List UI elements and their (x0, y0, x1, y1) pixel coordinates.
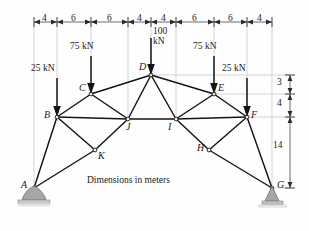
figure-caption: Dimensions in meters (87, 176, 170, 186)
load-label-100kN-apex-line2: kN (153, 37, 165, 47)
member-A-K (34, 150, 95, 188)
joint-K (93, 148, 97, 152)
member-K-J (95, 119, 128, 150)
joint-label-D: D (139, 62, 146, 72)
member-B-C (57, 94, 91, 117)
joint-label-H: H (197, 143, 204, 153)
joint-H (207, 148, 211, 152)
joint-label-K: K (98, 151, 105, 161)
dim-right-2: 4 (277, 99, 282, 109)
dim-top-6: 6 (192, 14, 197, 24)
member-B-J (57, 117, 128, 119)
joint-label-C: C (79, 83, 86, 93)
truss-members (34, 75, 272, 188)
member-I-F (176, 117, 247, 119)
joint-label-I: I (168, 122, 171, 132)
dim-top-1: 4 (42, 14, 47, 24)
joint-label-B: B (44, 110, 50, 120)
member-A-B (34, 117, 57, 188)
dim-right-3: 14 (273, 141, 283, 151)
member-C-J (91, 94, 128, 119)
dim-top-7: 6 (228, 14, 233, 24)
member-E-F (214, 94, 247, 117)
load-label-75kN-right: 75 kN (193, 42, 217, 52)
dim-top-8: 4 (257, 14, 262, 24)
dim-top-5: 4 (161, 14, 166, 24)
load-label-25kN-left: 25 kN (31, 64, 55, 74)
dim-top-4: 4 (137, 14, 142, 24)
dim-top-3: 6 (107, 14, 112, 24)
joint-I (174, 117, 178, 121)
load-arrow-75kN-left (87, 56, 95, 94)
joint-label-E: E (218, 83, 224, 93)
dim-right-1: 3 (277, 78, 282, 88)
load-label-75kN-left: 75 kN (70, 42, 94, 52)
right-dimension-line (285, 75, 295, 188)
member-E-I (176, 94, 214, 119)
truss-diagram-figure: 4 6 6 4 4 6 6 4 3 4 14 25 kN 75 kN 100 k… (0, 0, 309, 231)
member-F-G (247, 117, 272, 188)
joint-label-F: F (251, 110, 257, 120)
member-H-F (209, 117, 247, 150)
member-B-K (57, 117, 95, 150)
joint-label-G: G (277, 180, 284, 190)
load-label-25kN-right: 25 kN (222, 64, 246, 74)
load-arrow-25kN-left (53, 78, 61, 117)
member-H-G (209, 150, 272, 188)
dim-top-2: 6 (71, 14, 76, 24)
load-arrow-25kN-right (243, 78, 251, 117)
truss-joints (32, 73, 273, 190)
joint-label-J: J (126, 122, 130, 132)
joint-label-A: A (21, 180, 27, 190)
